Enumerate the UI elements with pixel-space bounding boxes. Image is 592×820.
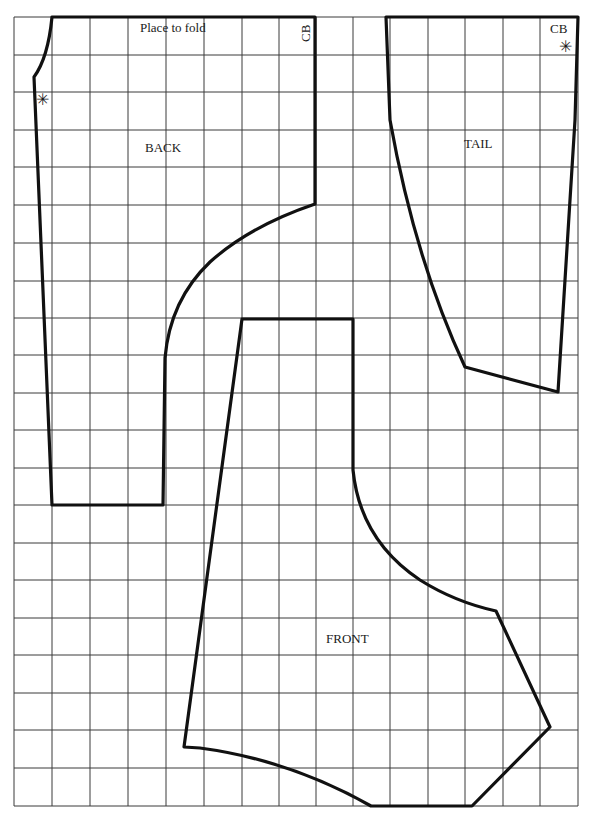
back-notch-asterisk-icon: ✳ [36,91,49,108]
tail-cb-label: CB [550,21,568,36]
back-cb-label: CB [298,24,313,42]
pattern-diagram: Place to fold CB BACK ✳ CB ✳ TAIL FRONT [0,0,592,820]
place-to-fold-label: Place to fold [140,20,206,35]
tail-notch-asterisk-icon: ✳ [559,38,572,55]
back-label: BACK [145,140,182,155]
tail-label: TAIL [464,136,493,151]
front-label: FRONT [326,631,369,646]
